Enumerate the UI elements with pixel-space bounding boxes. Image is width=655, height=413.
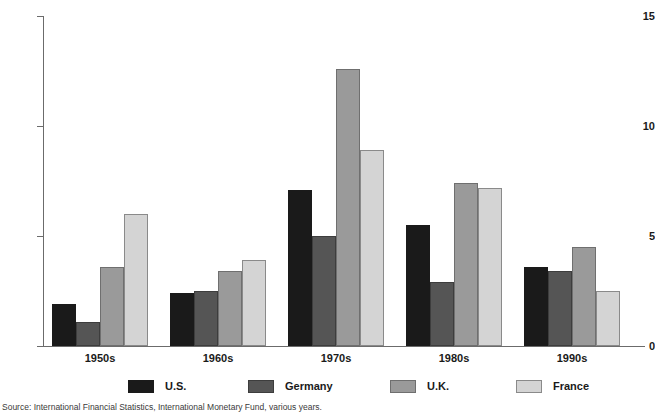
y-axis-tick xyxy=(37,16,43,17)
bar xyxy=(100,267,124,346)
bar xyxy=(312,236,336,346)
y-axis-tick-label: 10 xyxy=(621,121,655,132)
legend-item: France xyxy=(516,376,589,396)
y-axis-tick xyxy=(37,346,43,347)
bar xyxy=(218,271,242,346)
chart-legend: U.S.GermanyU.K.France xyxy=(0,376,655,398)
bar xyxy=(524,267,548,346)
legend-swatch xyxy=(516,380,542,393)
bar xyxy=(52,304,76,346)
x-axis-line xyxy=(43,346,645,347)
bar xyxy=(242,260,266,346)
y-axis-tick-label: 0 xyxy=(621,341,655,352)
bar xyxy=(596,291,620,346)
y-axis-tick-label: 5 xyxy=(621,231,655,242)
legend-swatch xyxy=(390,380,416,393)
x-axis-category-label: 1990s xyxy=(532,352,612,364)
bar xyxy=(170,293,194,346)
source-note: Source: International Financial Statisti… xyxy=(2,402,322,412)
bar xyxy=(288,190,312,346)
bar xyxy=(572,247,596,346)
bar-group xyxy=(288,16,384,346)
bar-group xyxy=(524,16,620,346)
legend-label: France xyxy=(553,380,589,392)
bar xyxy=(360,150,384,346)
bar-group xyxy=(406,16,502,346)
bar xyxy=(124,214,148,346)
bar-group xyxy=(170,16,266,346)
bar xyxy=(548,271,572,346)
legend-label: U.K. xyxy=(427,380,449,392)
bar-group xyxy=(52,16,148,346)
legend-label: Germany xyxy=(285,380,333,392)
x-axis-category-label: 1960s xyxy=(178,352,258,364)
bar xyxy=(336,69,360,346)
bar-chart: 051015 1950s1960s1970s1980s1990s U.S.Ger… xyxy=(0,0,655,413)
x-axis-category-label: 1980s xyxy=(414,352,494,364)
y-axis-tick xyxy=(37,126,43,127)
legend-item: U.K. xyxy=(390,376,449,396)
bar xyxy=(406,225,430,346)
bar xyxy=(430,282,454,346)
x-axis-category-label: 1950s xyxy=(60,352,140,364)
x-axis-category-label: 1970s xyxy=(296,352,376,364)
legend-swatch xyxy=(248,380,274,393)
bar xyxy=(454,183,478,346)
bar xyxy=(76,322,100,346)
legend-label: U.S. xyxy=(165,380,186,392)
bar xyxy=(478,188,502,346)
legend-item: U.S. xyxy=(128,376,186,396)
bar xyxy=(194,291,218,346)
y-axis-tick xyxy=(37,236,43,237)
y-axis-tick-label: 15 xyxy=(621,11,655,22)
legend-swatch xyxy=(128,380,154,393)
y-axis-line xyxy=(43,16,44,347)
legend-item: Germany xyxy=(248,376,333,396)
